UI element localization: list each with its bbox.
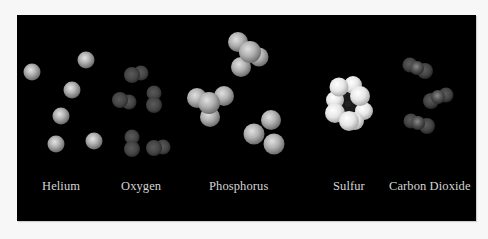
- label-helium: Helium: [42, 179, 80, 194]
- phosphorus-molecules: [187, 32, 285, 155]
- helium-atoms: [24, 52, 103, 153]
- label-phosphorus: Phosphorus: [209, 179, 268, 194]
- label-sulfur: Sulfur: [333, 179, 365, 194]
- molecule-illustration: [0, 0, 488, 239]
- label-oxygen: Oxygen: [121, 179, 161, 194]
- label-carbon-dioxide: Carbon Dioxide: [389, 179, 471, 194]
- oxygen-molecules: [112, 66, 171, 158]
- carbon-dioxide-molecules: [403, 58, 454, 135]
- sulfur-molecule: [325, 76, 373, 131]
